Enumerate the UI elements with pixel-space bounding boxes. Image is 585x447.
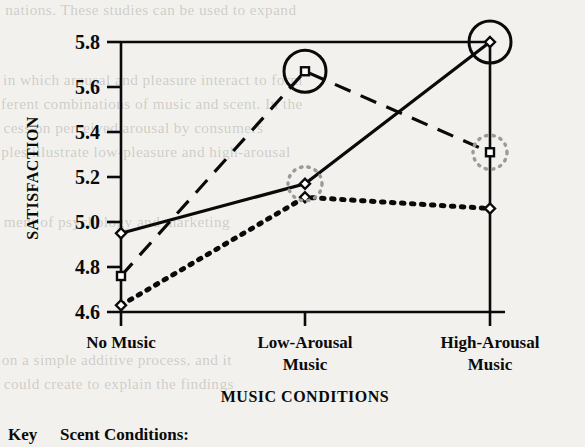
data-point-marker xyxy=(117,272,125,280)
data-point-marker xyxy=(485,204,495,214)
x-tick-label-no-music: No Music xyxy=(86,333,156,352)
data-point-marker xyxy=(486,148,494,156)
x-axis-tick-labels: No Music Low-Arousal Music High-Arousal … xyxy=(86,333,539,374)
x-tick-label-low-arousal-line1: Low-Arousal xyxy=(257,333,352,352)
series-dotted xyxy=(116,192,495,310)
y-tick-label-5-6: 5.6 xyxy=(75,76,100,98)
legend-heading: Scent Conditions: xyxy=(60,425,189,444)
series-line-dashed xyxy=(121,71,490,276)
plot-frame xyxy=(107,42,505,312)
y-tick-label-5-8: 5.8 xyxy=(75,31,100,53)
y-tick-label-5-0: 5.0 xyxy=(75,211,100,233)
x-tick-label-low-arousal-line2: Music xyxy=(283,355,328,374)
y-axis-tick-labels: 5.8 5.6 5.4 5.2 5.0 4.8 4.6 xyxy=(75,31,100,323)
x-axis-ticks xyxy=(121,312,490,326)
series-dashed xyxy=(117,67,494,280)
satisfaction-line-chart: 5.8 5.6 5.4 5.2 5.0 4.8 4.6 SATISFACTION… xyxy=(0,0,585,447)
data-point-marker xyxy=(116,300,126,310)
chart-svg: 5.8 5.6 5.4 5.2 5.0 4.8 4.6 SATISFACTION… xyxy=(0,0,585,447)
y-tick-label-5-2: 5.2 xyxy=(75,166,100,188)
data-point-marker xyxy=(116,228,126,238)
series-line-dotted xyxy=(121,197,490,305)
legend-key: Key Scent Conditions: xyxy=(8,425,189,444)
x-axis-title: MUSIC CONDITIONS xyxy=(221,388,389,405)
y-tick-label-5-4: 5.4 xyxy=(75,121,100,143)
data-series-layer xyxy=(116,37,495,310)
y-axis-title: SATISFACTION xyxy=(24,116,41,240)
x-tick-label-high-arousal-line1: High-Arousal xyxy=(441,333,540,352)
y-tick-label-4-6: 4.6 xyxy=(75,301,100,323)
y-tick-label-4-8: 4.8 xyxy=(75,256,100,278)
data-point-marker xyxy=(301,67,309,75)
key-label: Key xyxy=(8,425,38,444)
x-tick-label-high-arousal-line2: Music xyxy=(468,355,513,374)
